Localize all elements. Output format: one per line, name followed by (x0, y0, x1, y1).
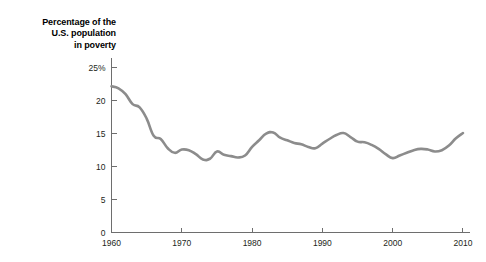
data-series-group (112, 86, 463, 160)
x-axis: 196019701980199020002010 (102, 228, 473, 248)
x-tick-label: 2000 (383, 238, 402, 248)
y-tick-label: 0 (101, 228, 106, 238)
x-tick-label: 2010 (454, 238, 473, 248)
y-tick-label: 15 (96, 129, 106, 139)
x-tick-label: 1990 (313, 238, 332, 248)
y-tick-label: 25% (88, 63, 105, 73)
y-tick-label: 20 (96, 96, 106, 106)
y-tick-label: 5 (101, 195, 106, 205)
y-tick-label: 10 (96, 162, 106, 172)
poverty-rate-line (112, 86, 463, 160)
x-tick-label: 1980 (243, 238, 262, 248)
chart-plot-area: 0510152025% 196019701980199020002010 (0, 0, 486, 262)
y-axis: 0510152025% (88, 58, 116, 238)
poverty-rate-chart: Percentage of the U.S. population in pov… (0, 0, 486, 262)
x-tick-label: 1960 (102, 238, 121, 248)
x-tick-label: 1970 (172, 238, 191, 248)
